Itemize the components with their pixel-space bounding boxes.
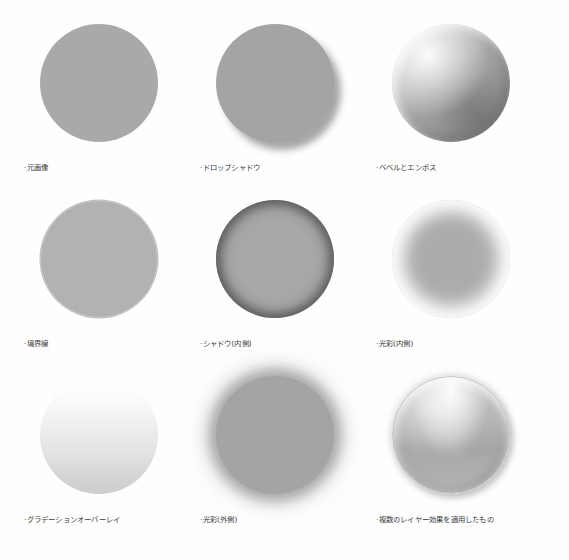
sample-cell-inner-shadow: ·シャドウ(内側)	[198, 190, 374, 366]
sample-caption-multiple-effects: ·複数のレイヤー効果を適用したもの	[376, 515, 556, 525]
sample-cell-inner-glow: ·光彩(内側)	[374, 190, 550, 366]
sample-caption-bevel-emboss: ·ベベルとエンボス	[376, 163, 556, 173]
sample-cell-stroke: ·境界線	[22, 190, 198, 366]
sample-stage	[22, 14, 174, 156]
circle-shape-outer-glow	[216, 376, 334, 494]
sample-stage	[198, 190, 350, 332]
sample-caption-stroke: ·境界線	[24, 339, 204, 349]
sample-caption-inner-shadow: ·シャドウ(内側)	[200, 339, 380, 349]
document-sheet: ·元画像 ·ドロップシャドウ ·ベベルとエンボス ·境界線 ·シャドウ(内側)	[0, 0, 569, 560]
sample-cell-original: ·元画像	[22, 14, 198, 190]
sample-caption-original: ·元画像	[24, 163, 204, 173]
sample-cell-outer-glow: ·光彩(外側)	[198, 366, 374, 542]
sample-stage	[374, 14, 526, 156]
sample-caption-outer-glow: ·光彩(外側)	[200, 515, 380, 525]
circle-shape-drop-shadow	[216, 24, 334, 142]
sample-cell-gradient-overlay: ·グラデーションオーバーレイ	[22, 366, 198, 542]
sample-caption-gradient-overlay: ·グラデーションオーバーレイ	[24, 515, 204, 525]
circle-shape-inner-glow	[392, 200, 510, 318]
circle-shape-gradient-overlay	[40, 376, 158, 494]
circle-shape-original	[40, 24, 158, 142]
sample-stage	[374, 190, 526, 332]
sample-caption-inner-glow: ·光彩(内側)	[376, 339, 556, 349]
circle-shape-inner-shadow	[216, 200, 334, 318]
layer-effects-grid: ·元画像 ·ドロップシャドウ ·ベベルとエンボス ·境界線 ·シャドウ(内側)	[22, 14, 550, 544]
sample-stage	[198, 366, 350, 508]
sample-stage	[22, 190, 174, 332]
sample-stage	[374, 366, 526, 508]
circle-shape-stroke	[40, 200, 158, 318]
circle-shape-bevel-emboss	[392, 24, 510, 142]
sample-caption-drop-shadow: ·ドロップシャドウ	[200, 163, 380, 173]
sample-stage	[22, 366, 174, 508]
sample-cell-multiple-effects: ·複数のレイヤー効果を適用したもの	[374, 366, 550, 542]
sample-cell-drop-shadow: ·ドロップシャドウ	[198, 14, 374, 190]
sample-cell-bevel-emboss: ·ベベルとエンボス	[374, 14, 550, 190]
circle-shape-multiple-effects	[392, 376, 510, 494]
sample-stage	[198, 14, 350, 156]
